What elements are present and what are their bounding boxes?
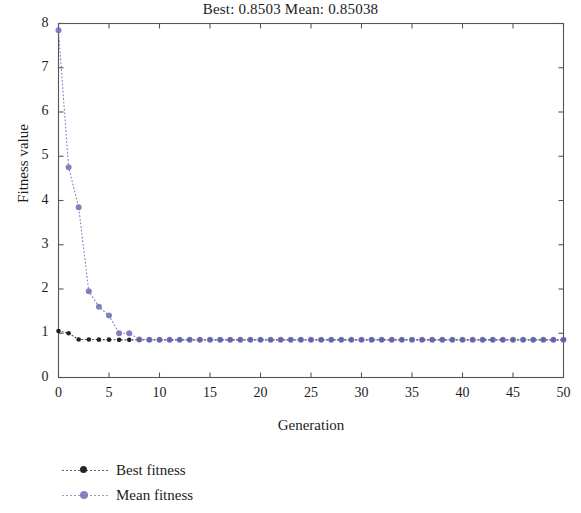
chart-legend: Best fitness Mean fitness — [62, 458, 382, 508]
legend-marker-best — [80, 466, 87, 473]
series-mean-fitness — [56, 27, 567, 343]
data-point-marker — [227, 337, 233, 343]
data-point-marker — [550, 337, 556, 343]
data-point-marker — [460, 337, 466, 343]
legend-dot — [62, 495, 64, 497]
data-point-marker — [258, 337, 264, 343]
data-point-marker — [328, 337, 334, 343]
data-point-marker — [167, 337, 173, 343]
data-point-marker — [86, 288, 92, 294]
data-point-marker — [97, 337, 102, 342]
data-point-marker — [419, 337, 425, 343]
x-tick-label: 45 — [495, 385, 531, 401]
x-tick-label: 30 — [344, 385, 380, 401]
y-tick-label: 8 — [23, 15, 49, 31]
y-tick-label: 6 — [23, 103, 49, 119]
legend-dot — [106, 470, 108, 472]
legend-label-best: Best fitness — [116, 462, 186, 479]
y-tick-label: 7 — [23, 59, 49, 75]
legend-dot — [74, 470, 76, 472]
legend-dot — [98, 470, 100, 472]
data-point-marker — [288, 337, 294, 343]
data-point-marker — [338, 337, 344, 343]
data-point-marker — [500, 337, 506, 343]
legend-dot — [70, 470, 72, 472]
data-point-marker — [217, 337, 223, 343]
legend-item-mean: Mean fitness — [62, 483, 382, 508]
data-point-marker — [96, 304, 102, 310]
legend-item-best: Best fitness — [62, 458, 382, 483]
x-tick-label: 15 — [192, 385, 228, 401]
legend-dot — [94, 495, 96, 497]
data-point-marker — [146, 337, 152, 343]
legend-dot — [66, 470, 68, 472]
data-point-marker — [117, 338, 122, 343]
y-tick-label: 2 — [23, 280, 49, 296]
data-point-marker — [247, 337, 253, 343]
data-point-marker — [87, 337, 92, 342]
data-point-marker — [66, 331, 71, 336]
x-tick-label: 25 — [293, 385, 329, 401]
data-point-marker — [530, 337, 536, 343]
x-tick-label: 0 — [41, 385, 77, 401]
data-point-marker — [126, 330, 132, 336]
legend-dot — [90, 470, 92, 472]
legend-dot — [62, 470, 64, 472]
x-tick-label: 50 — [546, 385, 581, 401]
plot-canvas — [0, 0, 581, 513]
data-point-marker — [561, 337, 567, 343]
series-line — [59, 30, 564, 340]
data-point-marker — [449, 337, 455, 343]
data-point-marker — [389, 337, 395, 343]
x-axis-label: Generation — [58, 417, 564, 434]
data-point-marker — [116, 330, 122, 336]
data-point-marker — [470, 337, 476, 343]
y-tick-label: 4 — [23, 192, 49, 208]
data-point-marker — [278, 337, 284, 343]
data-point-marker — [298, 337, 304, 343]
x-tick-label: 40 — [445, 385, 481, 401]
data-point-marker — [197, 337, 203, 343]
figure-container: Best: 0.8503 Mean: 0.85038 Fitness value… — [0, 0, 581, 513]
data-point-marker — [127, 338, 132, 343]
data-point-marker — [318, 337, 324, 343]
legend-label-mean: Mean fitness — [116, 487, 193, 504]
x-tick-label: 35 — [394, 385, 430, 401]
data-point-marker — [490, 337, 496, 343]
data-point-marker — [369, 337, 375, 343]
x-tick-label: 10 — [142, 385, 178, 401]
data-point-marker — [268, 337, 274, 343]
legend-dot — [74, 495, 76, 497]
data-point-marker — [56, 27, 62, 33]
data-point-marker — [348, 337, 354, 343]
data-point-marker — [106, 313, 112, 319]
axis-ticks — [59, 24, 564, 378]
legend-marker-mean — [80, 491, 88, 499]
legend-dot — [66, 495, 68, 497]
x-tick-label: 5 — [91, 385, 127, 401]
legend-swatch-best — [62, 464, 106, 478]
data-point-marker — [66, 164, 72, 170]
data-point-marker — [157, 337, 163, 343]
legend-dot — [102, 470, 104, 472]
y-tick-label: 5 — [23, 147, 49, 163]
data-point-marker — [308, 337, 314, 343]
legend-dot — [70, 495, 72, 497]
data-point-marker — [379, 337, 385, 343]
data-point-marker — [177, 337, 183, 343]
data-point-marker — [510, 337, 516, 343]
data-point-marker — [237, 337, 243, 343]
data-point-marker — [76, 337, 81, 342]
data-point-marker — [439, 337, 445, 343]
data-point-marker — [359, 337, 365, 343]
data-point-marker — [429, 337, 435, 343]
legend-dot — [98, 495, 100, 497]
plot-box — [59, 24, 564, 378]
y-tick-label: 0 — [23, 369, 49, 385]
legend-dot — [90, 495, 92, 497]
data-point-marker — [540, 337, 546, 343]
data-point-marker — [136, 336, 142, 342]
legend-dot — [94, 470, 96, 472]
data-point-marker — [107, 337, 112, 342]
data-point-marker — [207, 337, 213, 343]
